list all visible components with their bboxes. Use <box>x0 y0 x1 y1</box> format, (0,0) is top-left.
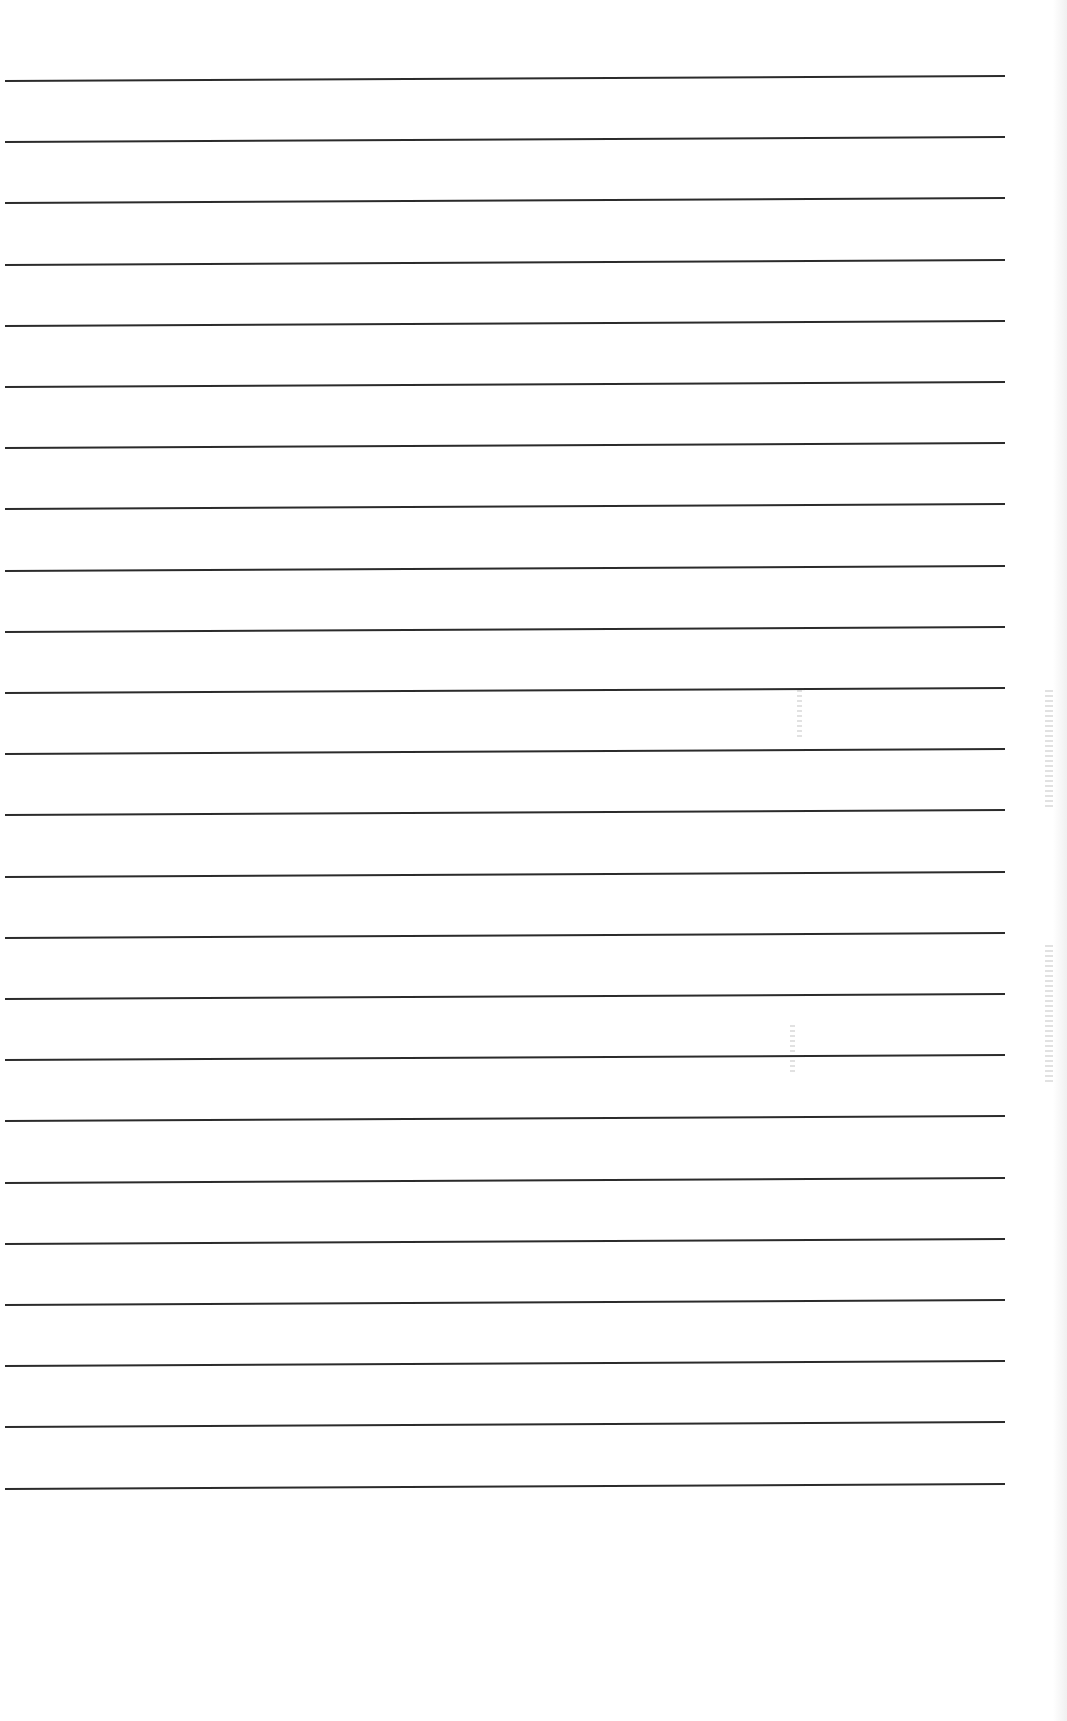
ruled-line <box>5 381 1005 388</box>
page-edge-shadow <box>1053 0 1067 1721</box>
ruled-line <box>5 626 1005 633</box>
ruled-line <box>5 1177 1005 1184</box>
scan-artifact <box>797 690 802 740</box>
ruled-line <box>5 687 1005 694</box>
ruled-line <box>5 993 1005 1000</box>
ruled-line <box>5 810 1005 817</box>
ruled-line <box>5 504 1005 511</box>
ruled-line <box>5 871 1005 878</box>
scan-artifact <box>790 1025 795 1075</box>
ruled-line <box>5 1054 1005 1061</box>
ruled-line <box>5 932 1005 939</box>
ruled-line <box>5 136 1005 143</box>
ruled-page <box>0 0 1067 1721</box>
ruled-line <box>5 259 1005 266</box>
scan-artifact <box>1045 690 1053 810</box>
ruled-line <box>5 748 1005 755</box>
ruled-line <box>5 198 1005 205</box>
ruled-line <box>5 442 1005 449</box>
ruled-line <box>5 75 1005 82</box>
ruled-line <box>5 1422 1005 1429</box>
ruled-line <box>5 565 1005 572</box>
ruled-line <box>5 1116 1005 1123</box>
ruled-line <box>5 320 1005 327</box>
ruled-line <box>5 1360 1005 1367</box>
ruled-line <box>5 1299 1005 1306</box>
scan-artifact <box>1045 945 1053 1085</box>
ruled-line <box>5 1238 1005 1245</box>
ruled-line <box>5 1483 1005 1490</box>
